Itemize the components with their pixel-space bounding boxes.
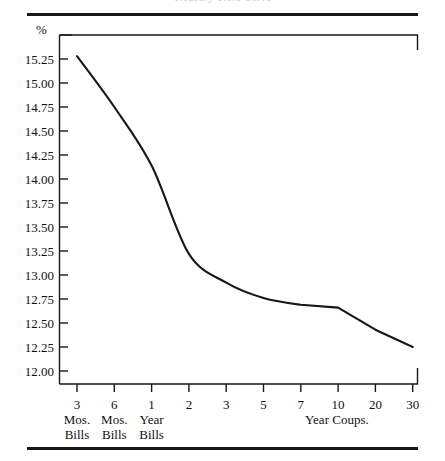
- x-tick-group-20: 20: [369, 397, 382, 412]
- x-tick-line1: Year: [139, 412, 164, 427]
- x-tick-group-5: 5: [260, 397, 267, 412]
- x-tick-number: 30: [406, 397, 419, 412]
- x-tick-number: 1: [139, 397, 164, 412]
- x-tick-group-6mos: 6 Mos. Bills: [101, 397, 127, 442]
- yield-curve-figure: Treasury Yield Curve %: [0, 0, 445, 461]
- x-tick-number: 2: [186, 397, 193, 412]
- x-tick-number: 3: [64, 397, 90, 412]
- x-tick-line2: Bills: [64, 427, 90, 442]
- x-tick-group-3: 3: [223, 397, 230, 412]
- x-tick-group-2: 2: [186, 397, 193, 412]
- x-tick-group-30: 30: [406, 397, 419, 412]
- x-tick-line1: Mos.: [64, 412, 90, 427]
- x-tick-number: 3: [223, 397, 230, 412]
- x-tick-line1: Mos.: [101, 412, 127, 427]
- x-tick-number: 5: [260, 397, 267, 412]
- x-tick-line2: Bills: [101, 427, 127, 442]
- x-tick-group-3mos: 3 Mos. Bills: [64, 397, 90, 442]
- x-axis-labels: 3 Mos. Bills 6 Mos. Bills 1 Year Bills 2…: [0, 0, 445, 461]
- x-axis-group-label-year-coups: Year Coups.: [305, 412, 369, 427]
- x-tick-group-1year: 1 Year Bills: [139, 397, 164, 442]
- x-tick-line2: Bills: [139, 427, 164, 442]
- x-tick-group-7: 7: [298, 397, 305, 412]
- x-tick-number: 20: [369, 397, 382, 412]
- x-tick-number: 10: [332, 397, 345, 412]
- x-tick-number: 7: [298, 397, 305, 412]
- x-tick-group-10: 10: [332, 397, 345, 412]
- x-tick-number: 6: [101, 397, 127, 412]
